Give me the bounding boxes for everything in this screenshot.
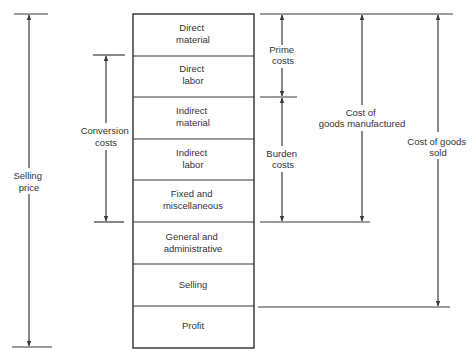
row-selling: Selling <box>179 279 208 290</box>
row-direct-material: Direct material <box>176 22 210 45</box>
row-general-and-administrative: General and administrative <box>164 231 223 254</box>
conversion-costs-label: Conversion costs <box>81 125 132 148</box>
cost-stack: Direct material Direct labor Indirect ma… <box>133 14 254 348</box>
row-fixed-and-miscellaneous: Fixed and miscellaneous <box>163 188 223 211</box>
cost-of-goods-sold-label: Cost of goods sold <box>407 136 468 158</box>
selling-price-bracket: Selling price <box>12 14 52 347</box>
burden-costs-label: Burden costs <box>266 148 299 170</box>
cost-of-goods-manufactured-label: Cost of goods manufactured <box>319 107 406 129</box>
prime-costs-bracket: Prime costs <box>269 15 296 96</box>
cost-structure-diagram: Direct material Direct labor Indirect ma… <box>0 0 473 359</box>
conversion-costs-bracket: Conversion costs <box>81 55 132 222</box>
selling-price-label: Selling price <box>13 170 44 193</box>
cost-of-goods-sold-bracket: Cost of goods sold <box>407 15 468 306</box>
row-profit: Profit <box>182 320 205 331</box>
cost-of-goods-manufactured-bracket: Cost of goods manufactured <box>319 15 406 221</box>
row-direct-labor: Direct labor <box>179 63 206 86</box>
row-indirect-material: Indirect material <box>176 105 210 128</box>
prime-costs-label: Prime costs <box>269 44 296 66</box>
burden-costs-bracket: Burden costs <box>266 98 299 221</box>
